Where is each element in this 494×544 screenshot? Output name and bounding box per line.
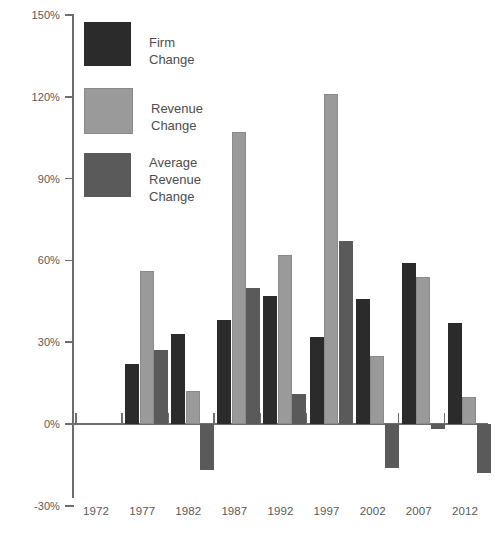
bar-1987-avgrev [246, 288, 260, 424]
y-axis-tick-label: 0% [0, 418, 60, 430]
y-axis-tick [65, 341, 74, 343]
bar-1992-firm [263, 296, 277, 424]
bar-2002-revenue [370, 356, 384, 424]
legend-swatch-firm [84, 22, 131, 66]
y-axis-tick-label: 150% [0, 9, 60, 21]
bar-2007-revenue [416, 277, 430, 424]
legend-item-revenue[interactable]: Revenue Change [84, 88, 203, 134]
bar-1982-revenue [186, 391, 200, 424]
bar-1982-avgrev [200, 424, 214, 470]
bar-1992-revenue [278, 255, 292, 424]
y-axis-line [72, 15, 74, 498]
y-axis-tick-label: 90% [0, 173, 60, 185]
bar-2007-firm [402, 263, 416, 424]
y-axis-tick [65, 260, 74, 262]
bar-1977-avgrev [154, 350, 168, 424]
legend-label-avgrev: Average Revenue Change [149, 153, 201, 205]
bar-1987-firm [217, 320, 231, 424]
y-axis-tick-label: -30% [0, 500, 60, 512]
legend-swatch-revenue [84, 88, 133, 134]
x-axis-tick [213, 413, 215, 424]
x-axis-tick-label: 2012 [435, 505, 494, 517]
y-axis-tick [65, 178, 74, 180]
bar-2012-avgrev [477, 424, 491, 473]
legend-swatch-avgrev [84, 153, 131, 197]
y-axis-tick-label: 30% [0, 336, 60, 348]
y-axis-tick [65, 423, 74, 425]
legend-label-revenue: Revenue Change [151, 88, 203, 134]
bar-2012-revenue [462, 397, 476, 424]
bar-1977-revenue [140, 271, 154, 424]
x-axis-tick [398, 413, 400, 424]
bar-2012-firm [448, 323, 462, 424]
bar-1992-avgrev [292, 394, 306, 424]
bar-2002-avgrev [385, 424, 399, 468]
y-axis-tick-label: 60% [0, 254, 60, 266]
bar-1982-firm [171, 334, 185, 424]
bar-1987-revenue [232, 132, 246, 424]
legend-item-firm[interactable]: Firm Change [84, 22, 195, 68]
bar-2002-firm [356, 299, 370, 424]
legend-label-firm: Firm Change [149, 22, 195, 68]
bar-1997-avgrev [339, 241, 353, 424]
bar-2007-avgrev [431, 424, 445, 429]
y-axis-tick [65, 96, 74, 98]
bar-1997-firm [310, 337, 324, 424]
bar-1997-revenue [324, 94, 338, 424]
legend-item-avgrev[interactable]: Average Revenue Change [84, 153, 201, 205]
y-axis-tick-label: 120% [0, 91, 60, 103]
y-axis-tick [65, 14, 74, 16]
bar-chart: 150%120%90%60%30%0%-30% 1972197719821987… [0, 0, 494, 544]
x-axis-tick [444, 413, 446, 424]
x-axis-tick [75, 413, 77, 424]
x-axis-tick [121, 413, 123, 424]
bar-1977-firm [125, 364, 139, 424]
